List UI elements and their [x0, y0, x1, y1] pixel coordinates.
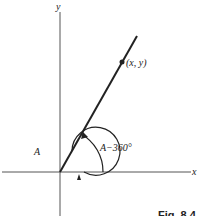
point-marker: [120, 60, 125, 65]
angle-diagram: y x (x, y) A A−360° Fig. 8.4: [0, 0, 198, 216]
angle-a-label: A: [33, 146, 41, 157]
x-axis-label: x: [191, 166, 197, 177]
angle-reduced-label: A−360°: [99, 142, 132, 153]
point-label: (x, y): [126, 57, 147, 69]
y-axis-label: y: [55, 1, 61, 12]
figure-caption: Fig. 8.4: [158, 209, 197, 216]
angle-a-arrowhead: [77, 174, 81, 180]
angle-reduced-arc: [81, 134, 103, 172]
